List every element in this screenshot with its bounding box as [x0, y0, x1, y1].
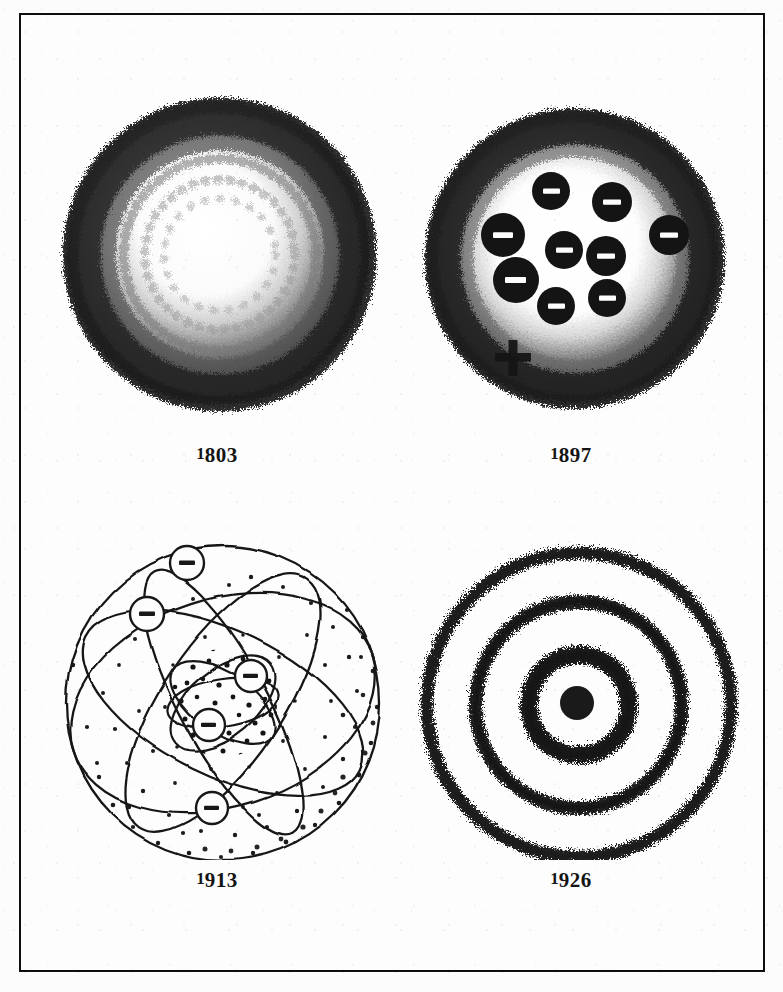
electron: [532, 172, 570, 210]
electron: [235, 660, 267, 692]
dalton-label-lead: 1: [196, 444, 205, 463]
dalton-label-rest: 803: [205, 443, 238, 467]
dalton-artwork: [43, 85, 391, 435]
figure-label-thomson: 1897: [397, 441, 745, 466]
figure-grid: 1803: [21, 15, 763, 970]
figure-thomson: 1897: [397, 85, 745, 485]
bohr-label-rest: 913: [205, 868, 238, 892]
electron: [537, 287, 575, 325]
figure-bohr: 1913: [43, 515, 391, 915]
electron: [493, 257, 539, 303]
quantum-nucleus: [560, 686, 594, 720]
figure-label-bohr: 1913: [43, 866, 391, 891]
electron: [649, 215, 689, 255]
electron: [481, 213, 525, 257]
quantum-artwork: [397, 515, 745, 860]
quantum-label-lead: 1: [550, 869, 559, 888]
electron: [170, 546, 204, 580]
plate-frame: 1803: [19, 13, 765, 972]
figure-dalton: 1803: [43, 85, 391, 485]
electron: [592, 182, 632, 222]
thomson-artwork: [397, 85, 745, 435]
thomson-label-rest: 897: [559, 443, 592, 467]
electron: [545, 231, 583, 269]
figure-label-quantum: 1926: [397, 866, 745, 891]
bohr-label-lead: 1: [196, 869, 205, 888]
atomic-models-plate: 1803: [0, 0, 783, 992]
thomson-label-lead: 1: [550, 444, 559, 463]
electron: [196, 792, 228, 824]
quantum-label-rest: 926: [559, 868, 592, 892]
bohr-artwork: [43, 515, 391, 860]
figure-label-dalton: 1803: [43, 441, 391, 466]
figure-quantum: 1926: [397, 515, 745, 915]
electron: [588, 279, 626, 317]
electron: [193, 709, 225, 741]
electron: [586, 236, 626, 276]
electron: [130, 597, 164, 631]
